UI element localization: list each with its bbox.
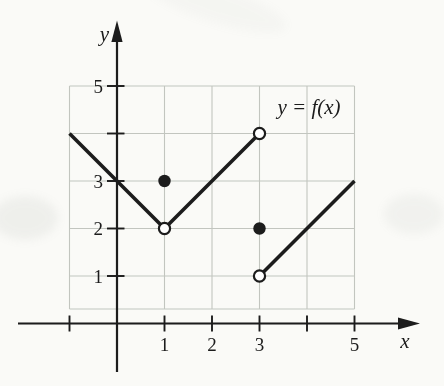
x-axis-arrow-icon — [398, 318, 420, 330]
curve-label: y = f(x) — [275, 95, 340, 119]
x-axis-label: x — [399, 329, 410, 353]
axes — [18, 21, 420, 373]
open-point — [254, 270, 265, 281]
open-point — [254, 128, 265, 139]
x-tick-label: 5 — [350, 334, 360, 355]
closed-point — [158, 175, 170, 187]
y-tick-label: 3 — [94, 171, 104, 192]
y-tick-label: 1 — [94, 266, 104, 287]
y-axis-arrow-icon — [111, 21, 122, 43]
x-tick-label: 3 — [255, 334, 265, 355]
y-axis-label: y — [98, 22, 110, 46]
x-tick-label: 2 — [207, 334, 217, 355]
y-tick-label: 5 — [94, 76, 104, 97]
x-tick-label: 1 — [160, 334, 170, 355]
open-point — [159, 223, 170, 234]
closed-point — [253, 222, 265, 234]
y-tick-label: 2 — [94, 218, 104, 239]
